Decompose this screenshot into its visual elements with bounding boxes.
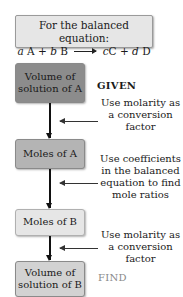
step-note-1: Use molarity as a conversion factor [98,97,183,133]
down-arrow-icon [49,103,51,138]
left-arrow-icon [60,248,98,249]
given-label: GIVEN [97,80,136,91]
node-moles-a: Moles of A [15,139,85,169]
find-label: FIND [98,272,127,283]
down-arrow-icon [49,236,51,260]
balanced-equation-box: For the balanced equation: a A + b B cC … [15,15,153,48]
node-volume-solution-b: Volume ofsolution of B [15,261,85,297]
node-moles-b: Moles of B [15,209,85,236]
left-arrow-icon [60,121,98,122]
node-volume-solution-a: Volume ofsolution of A [15,63,85,103]
reaction-arrow-icon [74,51,96,52]
step-note-3: Use molarity as a conversion factor [98,229,183,265]
left-arrow-icon [60,183,98,184]
equation-formula: a A + b B cC + d D [16,45,152,58]
step-note-2: Use coefficients in the balanced equatio… [98,153,183,201]
equation-title: For the balanced equation: [16,19,152,45]
down-arrow-icon [49,169,51,208]
